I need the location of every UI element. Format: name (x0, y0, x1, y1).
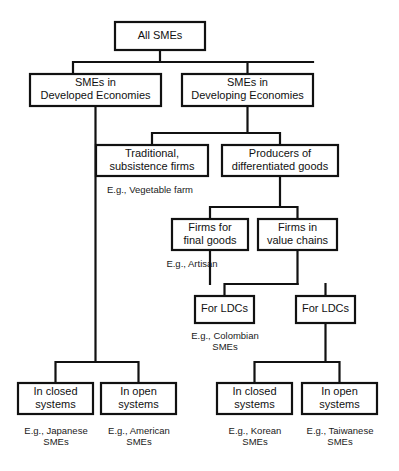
conn-value-to-ldc (298, 250, 326, 296)
node-label-final-goods-line2: final goods (183, 234, 237, 246)
node-label-closed-developed-line2: systems (35, 398, 76, 410)
node-label-open-developed-line1: In open (120, 385, 157, 397)
node-developing[interactable]: SMEs inDeveloping Economies (182, 74, 313, 106)
node-label-closed-developed-line1: In closed (33, 385, 77, 397)
node-traditional[interactable]: Traditional,subsistence firms (96, 145, 208, 176)
node-final-goods[interactable]: Firms forfinal goods (172, 219, 248, 250)
caption-artisan-line1: E.g., Artisan (166, 258, 217, 269)
caption-korean-line1: E.g., Korean (229, 425, 282, 436)
caption-colombian-line1: E.g., Colombian (191, 330, 259, 341)
node-label-value-chains-line2: value chains (267, 234, 329, 246)
caption-vegetable-farm-line1: E.g., Vegetable farm (107, 184, 193, 195)
conn-final-to-ldc (210, 250, 298, 296)
caption-taiwanese-line1: E.g., Taiwanese (307, 425, 374, 436)
conn-ldc-value-to-base (255, 323, 340, 383)
node-producers[interactable]: Producers ofdifferentiated goods (222, 145, 338, 176)
node-label-developed-line2: Developed Economies (40, 89, 151, 101)
caption-japanese-line1: E.g., Japanese (24, 425, 87, 436)
node-label-developed-line1: SMEs in (75, 76, 116, 88)
node-label-developing-line2: Developing Economies (191, 89, 304, 101)
node-ldc-value[interactable]: For LDCs (296, 296, 355, 323)
taxonomy-tree-svg: All SMEsSMEs inDeveloped EconomiesSMEs i… (0, 0, 399, 471)
node-label-final-goods-line1: Firms for (188, 221, 232, 233)
node-label-open-developed-line2: systems (118, 398, 159, 410)
caption-japanese-line2: SMEs (43, 436, 69, 447)
node-label-ldc-value-line1: For LDCs (302, 302, 350, 314)
conn-producers-split (210, 176, 298, 219)
node-ldc-final[interactable]: For LDCs (195, 296, 254, 323)
nodes-layer: All SMEsSMEs inDeveloped EconomiesSMEs i… (18, 22, 377, 414)
caption-korean-line2: SMEs (242, 436, 268, 447)
caption-american-line1: E.g., American (108, 425, 170, 436)
caption-korean: E.g., KoreanSMEs (229, 425, 282, 447)
node-all-smes[interactable]: All SMEs (115, 22, 205, 50)
node-label-open-ldc-line2: systems (319, 398, 360, 410)
node-label-closed-ldc-line1: In closed (232, 385, 276, 397)
node-label-all-smes-line1: All SMEs (138, 29, 183, 41)
caption-american-line2: SMEs (126, 436, 152, 447)
node-value-chains[interactable]: Firms invalue chains (258, 219, 337, 250)
node-label-closed-ldc-line2: systems (234, 398, 275, 410)
node-label-value-chains-line1: Firms in (278, 221, 317, 233)
caption-taiwanese: E.g., TaiwaneseSMEs (307, 425, 374, 447)
caption-vegetable-farm: E.g., Vegetable farm (107, 184, 193, 195)
caption-colombian: E.g., ColombianSMEs (191, 330, 259, 352)
caption-japanese: E.g., JapaneseSMEs (24, 425, 87, 447)
caption-american: E.g., AmericanSMEs (108, 425, 170, 447)
node-label-ldc-final-line1: For LDCs (201, 302, 249, 314)
diagram-canvas: All SMEsSMEs inDeveloped EconomiesSMEs i… (0, 0, 399, 471)
node-open-developed[interactable]: In opensystems (101, 383, 176, 414)
caption-artisan: E.g., Artisan (166, 258, 217, 269)
caption-colombian-line2: SMEs (212, 341, 238, 352)
node-label-open-ldc-line1: In open (321, 385, 358, 397)
conn-developing-split (152, 106, 280, 145)
node-label-traditional-line2: subsistence firms (110, 160, 195, 172)
node-label-developing-line1: SMEs in (227, 76, 268, 88)
node-label-producers-line1: Producers of (249, 147, 312, 159)
node-open-ldc[interactable]: In opensystems (302, 383, 377, 414)
node-closed-developed[interactable]: In closedsystems (18, 383, 93, 414)
node-closed-ldc[interactable]: In closedsystems (217, 383, 292, 414)
node-label-traditional-line1: Traditional, (125, 147, 179, 159)
conn-all-to-row2 (73, 50, 313, 74)
caption-taiwanese-line2: SMEs (327, 436, 353, 447)
node-label-producers-line2: differentiated goods (232, 160, 329, 172)
node-developed[interactable]: SMEs inDeveloped Economies (30, 74, 161, 106)
